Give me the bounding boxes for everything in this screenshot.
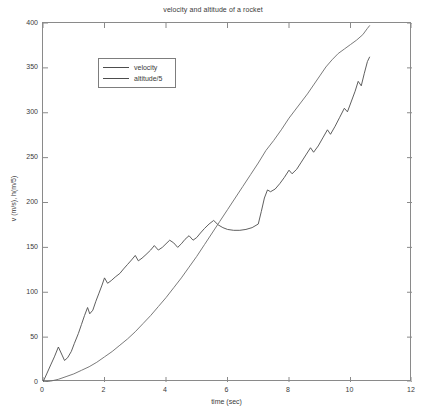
- legend-item-altitude: altitude/5: [103, 73, 171, 84]
- legend-line-icon: [103, 78, 129, 79]
- y-tick-label: 50: [4, 333, 38, 340]
- y-axis-label: v (m/s), h(m/5): [10, 144, 17, 254]
- y-tick-label: 100: [4, 288, 38, 295]
- x-tick-label: 12: [396, 386, 426, 393]
- x-tick-label: 4: [150, 386, 180, 393]
- x-tick-label: 10: [335, 386, 365, 393]
- x-tick-label: 2: [89, 386, 119, 393]
- figure-canvas: velocity and altitude of a rocket 050100…: [0, 0, 426, 417]
- series-line-velocity: [43, 57, 370, 382]
- plot-area: velocity altitude/5: [42, 22, 411, 381]
- legend-label: altitude/5: [134, 75, 162, 82]
- legend: velocity altitude/5: [98, 58, 176, 88]
- legend-item-velocity: velocity: [103, 62, 171, 73]
- x-tick-label: 0: [27, 386, 57, 393]
- y-tick-label: 0: [4, 378, 38, 385]
- y-tick-label: 350: [4, 63, 38, 70]
- legend-line-icon: [103, 67, 129, 68]
- x-axis-tick-labels: 024681012: [0, 386, 426, 398]
- data-series-group: [43, 26, 370, 382]
- x-tick-label: 6: [212, 386, 242, 393]
- series-line-altitude-5: [43, 26, 370, 382]
- y-tick-label: 400: [4, 19, 38, 26]
- x-tick-label: 8: [273, 386, 303, 393]
- chart-title: velocity and altitude of a rocket: [0, 6, 426, 13]
- legend-label: velocity: [134, 64, 157, 71]
- y-tick-label: 300: [4, 108, 38, 115]
- x-axis-label: time (sec): [42, 398, 411, 405]
- y-axis-tick-labels: 050100150200250300350400: [0, 0, 38, 417]
